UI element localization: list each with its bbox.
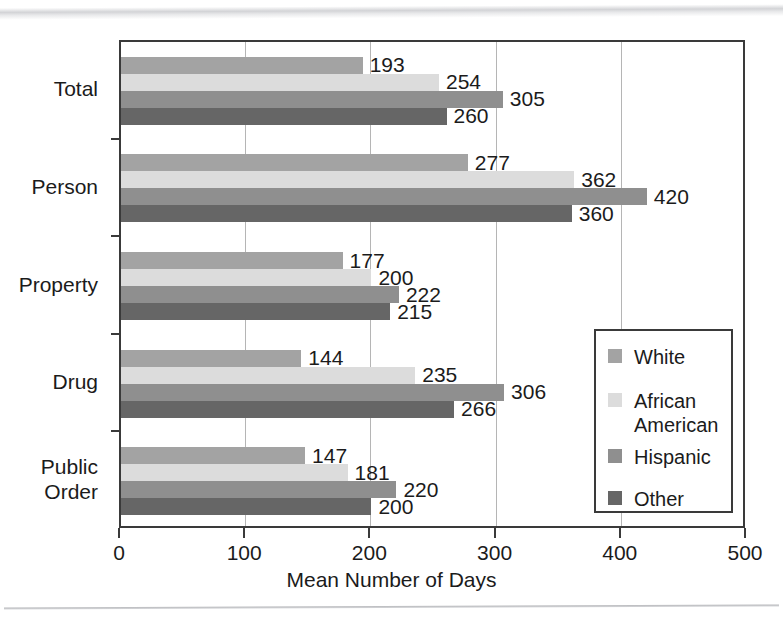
- legend-item[interactable]: Hispanic: [608, 445, 711, 469]
- bar-value-label: 277: [475, 152, 510, 173]
- bar-row: 177: [121, 252, 743, 269]
- x-axis-tick: [619, 528, 621, 538]
- bar-value-label: 266: [461, 398, 496, 419]
- bar-value-label: 260: [454, 105, 489, 126]
- legend-swatch-icon: [608, 449, 622, 463]
- bar[interactable]: [121, 74, 439, 91]
- legend-label: Other: [634, 487, 684, 511]
- x-axis-tick: [744, 528, 746, 538]
- bar-row: 260: [121, 108, 743, 125]
- bar-group: 193254305260: [121, 57, 743, 125]
- bar[interactable]: [121, 188, 647, 205]
- bar-value-label: 215: [397, 301, 432, 322]
- y-axis-label-total: Total: [0, 76, 98, 101]
- bar-value-label: 362: [581, 169, 616, 190]
- bar[interactable]: [121, 384, 504, 401]
- bar[interactable]: [121, 350, 301, 367]
- bar-group: 177200222215: [121, 252, 743, 320]
- legend-item[interactable]: African American: [608, 389, 718, 437]
- bar-value-label: 144: [308, 347, 343, 368]
- x-axis-tick-label: 200: [329, 541, 409, 565]
- bar-row: 362: [121, 171, 743, 188]
- legend-swatch-icon: [608, 393, 622, 407]
- bar[interactable]: [121, 303, 390, 320]
- bar[interactable]: [121, 205, 572, 222]
- bar[interactable]: [121, 57, 363, 74]
- legend: WhiteAfrican AmericanHispanicOther: [594, 329, 733, 513]
- bar[interactable]: [121, 481, 396, 498]
- bar-row: 277: [121, 154, 743, 171]
- bar-row: 420: [121, 188, 743, 205]
- bar-value-label: 235: [422, 364, 457, 385]
- bar[interactable]: [121, 286, 399, 303]
- legend-item[interactable]: Other: [608, 487, 684, 511]
- bar[interactable]: [121, 91, 503, 108]
- x-axis-tick-label: 0: [79, 541, 159, 565]
- y-axis-label-public-order: Public Order: [0, 454, 98, 504]
- bar-value-label: 305: [510, 88, 545, 109]
- legend-label: African American: [634, 389, 718, 437]
- x-axis-tick: [494, 528, 496, 538]
- bar-row: 215: [121, 303, 743, 320]
- bar-value-label: 193: [370, 54, 405, 75]
- bar[interactable]: [121, 464, 348, 481]
- bar-row: 360: [121, 205, 743, 222]
- bar-value-label: 254: [446, 71, 481, 92]
- x-axis-tick: [368, 528, 370, 538]
- x-axis-title: Mean Number of Days: [0, 568, 783, 592]
- x-axis-tick-label: 400: [580, 541, 660, 565]
- bar-value-label: 147: [312, 445, 347, 466]
- bar-chart: TotalPersonPropertyDrugPublic Order 1932…: [0, 0, 783, 627]
- legend-label: Hispanic: [634, 445, 711, 469]
- bar[interactable]: [121, 498, 371, 515]
- bar-row: 254: [121, 74, 743, 91]
- bar[interactable]: [121, 252, 343, 269]
- bar-value-label: 200: [378, 496, 413, 517]
- bar[interactable]: [121, 447, 305, 464]
- bar-value-label: 181: [355, 462, 390, 483]
- legend-label: White: [634, 345, 685, 369]
- bar[interactable]: [121, 401, 454, 418]
- bar[interactable]: [121, 108, 447, 125]
- legend-swatch-icon: [608, 491, 622, 505]
- bar[interactable]: [121, 171, 574, 188]
- y-axis-label-person: Person: [0, 174, 98, 199]
- bar-value-label: 360: [579, 203, 614, 224]
- x-axis-tick: [243, 528, 245, 538]
- y-axis-label-drug: Drug: [0, 369, 98, 394]
- y-axis-category-labels: TotalPersonPropertyDrugPublic Order: [0, 0, 110, 627]
- bar-row: 193: [121, 57, 743, 74]
- bar-value-label: 306: [511, 381, 546, 402]
- bar[interactable]: [121, 367, 415, 384]
- x-axis-tick-label: 300: [455, 541, 535, 565]
- bar-group: 277362420360: [121, 154, 743, 222]
- bar[interactable]: [121, 269, 371, 286]
- bar[interactable]: [121, 154, 468, 171]
- legend-item[interactable]: White: [608, 345, 685, 369]
- bar-row: 305: [121, 91, 743, 108]
- bar-value-label: 420: [654, 186, 689, 207]
- x-axis-tick-label: 500: [705, 541, 783, 565]
- legend-swatch-icon: [608, 349, 622, 363]
- x-axis-tick: [118, 528, 120, 538]
- y-axis-label-property: Property: [0, 272, 98, 297]
- x-axis-tick-label: 100: [204, 541, 284, 565]
